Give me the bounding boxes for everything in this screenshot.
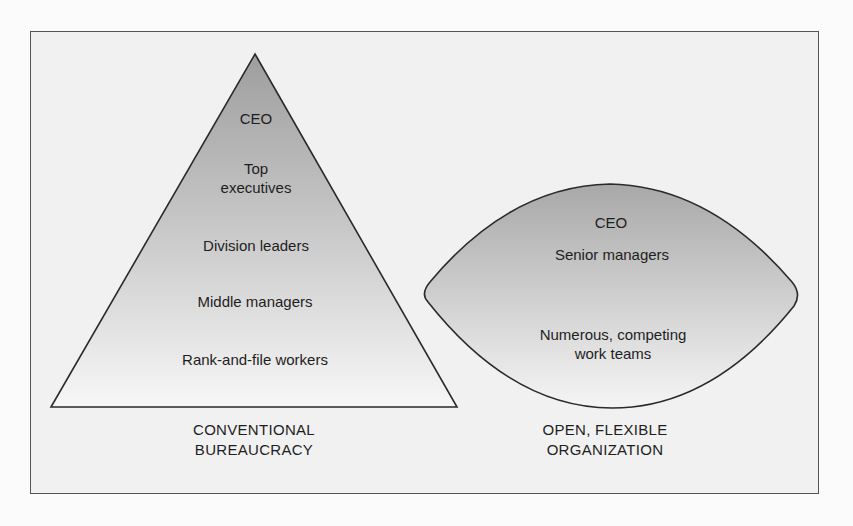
caption-conventional-bureaucracy: CONVENTIONAL BUREAUCRACY xyxy=(193,420,315,460)
caption-right-line2: ORGANIZATION xyxy=(542,440,667,460)
pyramid-level-top-line1: Top xyxy=(221,159,292,178)
lens-level-senior-managers: Senior managers xyxy=(555,245,669,264)
lens-level-work-teams: Numerous, competing work teams xyxy=(540,325,687,363)
pyramid-level-top-executives: Top executives xyxy=(221,159,292,197)
caption-left-line1: CONVENTIONAL xyxy=(193,420,315,440)
caption-open-flexible-organization: OPEN, FLEXIBLE ORGANIZATION xyxy=(542,420,667,460)
lens-level-teams-line1: Numerous, competing xyxy=(540,325,687,344)
diagram-shapes xyxy=(0,0,853,526)
pyramid-level-middle-managers: Middle managers xyxy=(197,292,312,311)
caption-left-line2: BUREAUCRACY xyxy=(193,440,315,460)
lens-level-ceo: CEO xyxy=(595,213,628,232)
pyramid-level-top-line2: executives xyxy=(221,178,292,197)
pyramid-level-ceo: CEO xyxy=(240,109,273,128)
lens-level-teams-line2: work teams xyxy=(540,344,687,363)
pyramid-level-rank-and-file: Rank-and-file workers xyxy=(182,350,328,369)
pyramid-level-division-leaders: Division leaders xyxy=(203,236,309,255)
caption-right-line1: OPEN, FLEXIBLE xyxy=(542,420,667,440)
